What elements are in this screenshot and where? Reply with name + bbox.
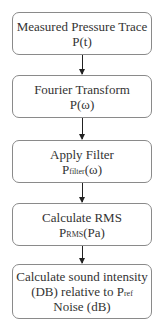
step-fourier-transform: Fourier Transform P(ω) <box>12 75 152 118</box>
step-line-3: Noise (dB) <box>53 299 110 314</box>
step-formula: Pfilter(ω) <box>62 162 102 177</box>
step-formula: P(ω) <box>70 97 94 112</box>
step-title: Calculate sound intensity <box>16 269 147 284</box>
step-title: Measured Pressure Trace <box>17 19 148 34</box>
flow-arrow <box>82 55 83 74</box>
line-text: (DB) relative to P <box>31 284 124 299</box>
step-apply-filter: Apply Filter Pfilter(ω) <box>12 140 152 183</box>
formula-argument: (Pa) <box>83 225 105 240</box>
step-calculate-sound-intensity: Calculate sound intensity (DB) relative … <box>12 264 152 319</box>
flow-arrow <box>82 118 83 139</box>
step-title: Fourier Transform <box>34 82 130 97</box>
formula-subscript: filter <box>69 167 85 176</box>
flow-arrow <box>82 246 83 263</box>
formula-symbol: P <box>70 97 77 112</box>
flow-arrow <box>82 183 83 202</box>
formula-subscript: RMS <box>66 230 83 239</box>
step-formula: P(t) <box>72 34 92 49</box>
step-calculate-rms: Calculate RMS PRMS(Pa) <box>12 203 152 246</box>
step-line-2: (DB) relative to Pref <box>31 284 133 299</box>
formula-argument: (ω) <box>77 97 94 112</box>
step-measured-pressure-trace: Measured Pressure Trace P(t) <box>12 12 152 55</box>
formula-argument: (ω) <box>85 162 102 177</box>
step-title: Calculate RMS <box>42 210 122 225</box>
formula-subscript: ref <box>124 289 133 298</box>
formula-argument: (t) <box>79 34 91 49</box>
step-formula: PRMS(Pa) <box>59 225 105 240</box>
step-title: Apply Filter <box>50 147 114 162</box>
